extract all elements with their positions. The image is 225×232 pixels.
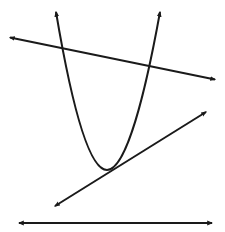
- secant-line: [10, 38, 215, 80]
- diagram-svg: [0, 0, 225, 232]
- parabola-curve: [56, 12, 160, 170]
- tangent-line: [55, 112, 206, 206]
- diagram-canvas: [0, 0, 225, 232]
